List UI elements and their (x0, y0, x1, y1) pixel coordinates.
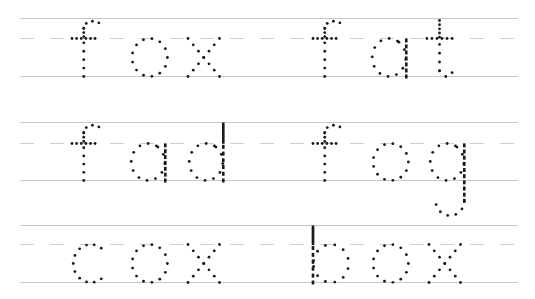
trace-dot (437, 144, 440, 147)
trace-dot (391, 179, 394, 182)
trace-dot (342, 276, 345, 279)
trace-dot (326, 22, 329, 25)
trace-dot (218, 75, 221, 78)
trace-dot (208, 256, 211, 259)
trace-dot (438, 268, 441, 271)
dotted-letter-t (426, 19, 454, 78)
dotted-letter-c (72, 243, 103, 283)
tracing-worksheet: Tracing practice: words with f, o, x fox… (0, 0, 535, 299)
trace-dot (312, 253, 315, 257)
trace-dot (138, 176, 141, 179)
trace-dot (461, 208, 464, 211)
trace-dot (330, 37, 333, 40)
trace-dot (150, 37, 153, 40)
trace-dot (323, 136, 326, 139)
trace-dot (333, 244, 336, 247)
trace-dot (323, 67, 326, 70)
trace-dot (150, 75, 153, 78)
traceable-word-box[interactable]: box (312, 226, 462, 285)
trace-dot (135, 69, 138, 72)
trace-dot (405, 50, 408, 54)
trace-dot (323, 155, 326, 158)
trace-dot (71, 142, 74, 145)
trace-dot (323, 75, 326, 78)
trace-dot (459, 243, 462, 246)
trace-dot (218, 243, 221, 246)
trace-dot (444, 75, 447, 78)
trace-dot (316, 37, 319, 40)
trace-dot (399, 278, 402, 281)
trace-dot (131, 52, 134, 55)
trace-dot (395, 73, 398, 76)
traceable-word-fat[interactable]: fat (312, 19, 454, 78)
trace-dot (147, 142, 150, 145)
trace-dot (142, 244, 145, 247)
dotted-letter-x (187, 37, 221, 78)
trace-dot (312, 281, 315, 285)
trace-dot (316, 250, 319, 253)
trace-dot (436, 37, 439, 40)
trace-dot (187, 75, 190, 78)
trace-dot (222, 136, 225, 140)
trace-dot (222, 129, 225, 133)
trace-dot (441, 37, 444, 40)
trace-dot (85, 126, 88, 129)
trace-dot (222, 133, 225, 137)
trace-dot (135, 275, 138, 278)
trace-dot (138, 144, 141, 147)
trace-dot (453, 177, 456, 180)
trace-dot (192, 69, 195, 72)
trace-dot (164, 253, 167, 256)
trace-dot (399, 145, 402, 148)
trace-dot (222, 165, 225, 169)
dotted-letter-o (131, 37, 169, 78)
trace-dot (323, 27, 326, 30)
trace-dot (330, 142, 333, 145)
trace-dot (463, 180, 466, 184)
trace-dot (222, 158, 225, 162)
trace-dot (439, 210, 442, 213)
trace-dot (205, 142, 208, 145)
trace-dot (426, 37, 429, 40)
trace-dot (433, 275, 436, 278)
trace-dot (324, 244, 327, 247)
trace-dot (82, 67, 85, 70)
trace-dot (82, 131, 85, 134)
trace-dot (332, 20, 335, 23)
traceable-word-fox[interactable]: fox (71, 20, 221, 78)
trace-dot (437, 176, 440, 179)
trace-dot (213, 145, 216, 148)
trace-dot (208, 268, 211, 271)
trace-dot (150, 281, 153, 284)
trace-dot (446, 214, 449, 217)
traceable-word-cox[interactable]: cox (72, 243, 221, 284)
trace-dot (347, 267, 350, 270)
trace-dot (342, 248, 345, 251)
trace-dot (82, 146, 85, 149)
traceable-word-fad[interactable]: fad (71, 123, 225, 183)
trace-dot (438, 23, 441, 26)
trace-dot (312, 37, 315, 40)
trace-dot (435, 203, 438, 206)
trace-dot (325, 37, 328, 40)
trace-dot (372, 258, 375, 261)
trace-dot (187, 243, 190, 246)
trace-dot (347, 257, 350, 260)
trace-dot (433, 249, 436, 252)
trace-dot (316, 274, 319, 277)
trace-dot (321, 37, 324, 40)
trace-dot (312, 241, 315, 245)
trace-dot (323, 58, 326, 61)
trace-dot (196, 176, 199, 179)
trace-dot (197, 256, 200, 259)
trace-dot (164, 65, 167, 68)
trace-dot (438, 69, 441, 72)
trace-dot (164, 161, 167, 165)
trace-dot (373, 65, 376, 68)
trace-dot (405, 44, 408, 48)
trace-dot (187, 37, 190, 40)
trace-dot (399, 176, 402, 179)
trace-dot (405, 56, 408, 60)
trace-dot (188, 160, 191, 163)
traceable-word-fog[interactable]: fog (312, 124, 466, 217)
